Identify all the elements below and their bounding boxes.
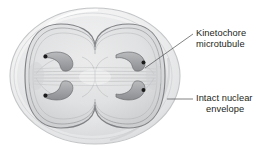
kinetochore-dot-top-left bbox=[44, 55, 48, 59]
spindle-pole-right bbox=[146, 62, 162, 90]
kinetochore-dot-bottom-right bbox=[142, 88, 146, 92]
spindle-pole-left bbox=[28, 62, 44, 90]
kinetochore-label-line1: Kinetochore bbox=[196, 28, 246, 38]
envelope-label-line1: Intact nuclear bbox=[196, 93, 253, 103]
kinetochore-dot-bottom-left bbox=[44, 94, 48, 98]
envelope-label-line2: envelope bbox=[196, 104, 253, 115]
kinetochore-label-line2: microtubule bbox=[196, 39, 245, 49]
kinetochore-microtubule-label: Kinetochore microtubule bbox=[196, 28, 246, 51]
spindle-midzone bbox=[79, 69, 111, 85]
intact-nuclear-envelope-label: Intact nuclear envelope bbox=[196, 93, 253, 116]
kinetochore-dot-top-right bbox=[142, 61, 146, 65]
cell-division-diagram bbox=[0, 0, 269, 152]
